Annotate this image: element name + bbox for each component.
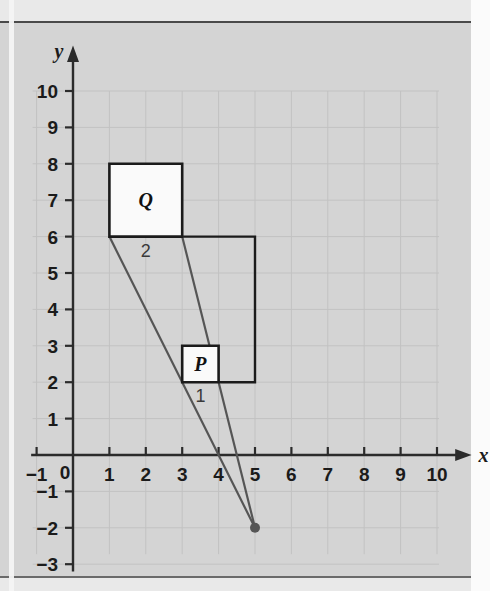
x-tick-label: 4 [213,464,224,485]
y-tick-label: −3 [36,554,58,575]
x-tick-label: 7 [323,464,334,485]
x-tick-label: 8 [359,464,370,485]
x-axis-label: x [478,444,489,466]
coordinate-grid-figure: −11234567891010987654321−1−2−30xy Q2P1 [0,0,490,591]
y-tick-label: −1 [36,481,58,502]
y-tick-label: 9 [47,117,58,138]
axis-tick-labels: −11234567891010987654321−1−2−30xy [26,40,489,575]
y-axis-label: y [53,40,64,63]
x-tick-label: 1 [104,464,115,485]
x-tick-label: 6 [286,464,297,485]
square-Q-label: Q [139,189,153,211]
y-tick-label: 4 [47,299,58,320]
x-tick-label: 5 [250,464,261,485]
x-tick-label: 2 [141,464,152,485]
grid-lines [33,91,439,564]
construction-lines [109,237,260,533]
square-P-side-length-label: 1 [195,386,205,406]
x-axis-arrowhead [455,449,471,461]
y-tick-label: 7 [47,190,58,211]
axis-lines [31,46,471,572]
y-tick-label: 2 [47,372,58,393]
x-tick-label: 10 [426,464,447,485]
y-tick-label: −2 [36,518,58,539]
y-tick-label: 6 [47,227,58,248]
x-tick-label: 3 [177,464,188,485]
y-tick-label: 1 [47,409,58,430]
center-of-enlargement-point [250,523,260,533]
square-P-label: P [193,353,207,375]
y-tick-label: 10 [37,81,58,102]
y-axis-arrowhead [67,46,79,62]
figure-page: −11234567891010987654321−1−2−30xy Q2P1 [0,0,490,591]
x-tick-label: 9 [395,464,406,485]
y-tick-label: 8 [47,154,58,175]
origin-label: 0 [60,462,71,483]
square-Q-side-length-label: 2 [141,241,151,261]
y-tick-label: 5 [47,263,58,284]
y-tick-label: 3 [47,336,58,357]
